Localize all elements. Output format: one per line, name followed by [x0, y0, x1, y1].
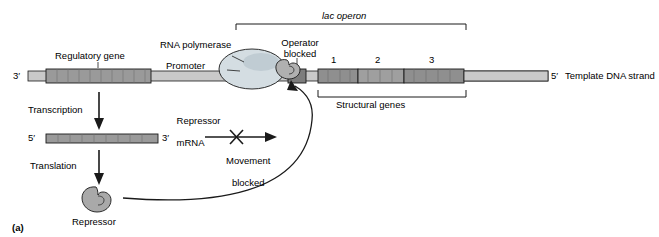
promoter-label: Promoter	[166, 60, 205, 71]
structural-gene-2	[358, 69, 404, 83]
structural-gene-3	[404, 69, 464, 83]
structural-genes-bracket	[318, 90, 466, 97]
panel-label: (a)	[12, 222, 24, 233]
structural-gene-1	[318, 69, 358, 83]
mrna-right-3prime-marker: 3′	[162, 132, 169, 143]
regulatory-gene-label: Regulatory gene	[55, 50, 125, 61]
translation-arrow-head	[94, 173, 104, 185]
lac-operon-title: lac operon	[322, 10, 366, 21]
movement-blocked-head	[265, 132, 277, 142]
dna-right-3prime-marker: 5′	[551, 70, 558, 81]
dna-right-tail	[464, 71, 548, 81]
movement-blocked-label: Movement blocked	[200, 144, 286, 199]
mrna-left-5prime-marker: 5′	[28, 132, 35, 143]
transcription-label: Transcription	[28, 104, 83, 115]
translation-label: Translation	[30, 160, 77, 171]
template-dna-strand-label: Template DNA strand	[565, 70, 659, 81]
gene-number-3: 3	[429, 54, 434, 65]
rna-polymerase-label: RNA polymerase	[160, 39, 231, 50]
transcription-arrow-head	[94, 118, 104, 130]
gene-number-2: 2	[375, 54, 380, 65]
repressor-label: Repressor	[72, 216, 116, 227]
lac-operon-bracket	[236, 24, 466, 30]
structural-genes-label: Structural genes	[336, 99, 405, 110]
repressor-mrna-bar	[46, 134, 158, 143]
movement-blocked-line2: blocked	[232, 177, 265, 188]
repressor-free-shape	[82, 187, 111, 212]
dna-left-5prime-marker: 3′	[13, 70, 20, 81]
movement-blocked-line1: Movement	[226, 155, 270, 166]
operator-blocked-label: Operator blocked	[272, 37, 328, 59]
gene-number-1: 1	[331, 54, 336, 65]
repressor-mrna-label-line1: Repressor	[177, 115, 221, 126]
regulatory-gene-block	[46, 69, 151, 83]
